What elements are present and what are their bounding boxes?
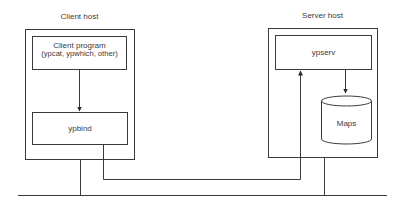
client-host-title: Client host [25,12,134,21]
nis-diagram [0,0,400,203]
ypbind-label: ypbind [32,124,128,133]
client-program-examples: (ypcat, ypwhich, other) [32,50,127,59]
ypbind-to-ypserv-connection [104,71,301,180]
maps-label: Maps [321,119,372,128]
ypserv-label: ypserv [275,48,372,57]
server-host-title: Server host [268,11,377,20]
client-program-label: Client program (ypcat, ypwhich, other) [32,41,127,59]
